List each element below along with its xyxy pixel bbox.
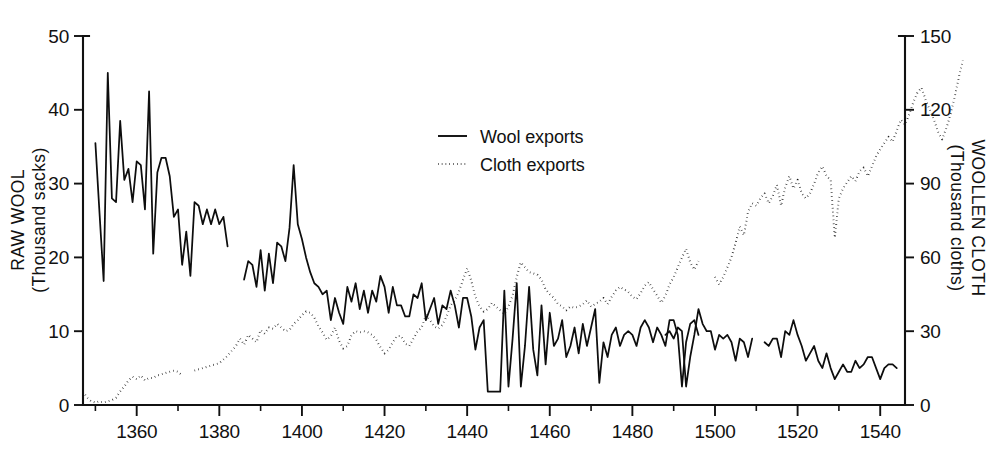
chart-container: 0102030405003060901201501360138014001420… (0, 0, 999, 460)
x-axis-ticklabel: 1440 (447, 421, 488, 442)
left-axis-title-line2: (Thousand sacks) (29, 147, 49, 293)
left-axis-ticklabel: 20 (48, 247, 69, 268)
legend-label: Cloth exports (480, 155, 585, 175)
left-axis-ticklabel: 50 (48, 26, 69, 47)
series-line-segment (244, 165, 698, 392)
x-axis-ticklabel: 1520 (777, 421, 818, 442)
x-axis-ticklabel: 1420 (364, 421, 405, 442)
left-axis-title-line1: RAW WOOL (8, 169, 28, 271)
x-axis-ticklabel: 1480 (612, 421, 653, 442)
x-axis-ticklabel: 1360 (116, 421, 157, 442)
plot-area (83, 61, 963, 403)
right-axis-title-line2: (Thousand cloths) (947, 145, 967, 292)
x-axis-ticklabel: 1500 (694, 421, 735, 442)
series-line-segment (765, 320, 897, 379)
right-axis-ticklabel: 30 (920, 321, 941, 342)
right-axis-ticklabel: 120 (920, 99, 951, 120)
series-cloth (83, 61, 963, 403)
left-axis-title: RAW WOOL(Thousand sacks) (8, 147, 49, 293)
x-axis-ticklabel: 1460 (529, 421, 570, 442)
series-line-segment (83, 371, 182, 403)
x-axis-ticklabel: 1540 (860, 421, 901, 442)
left-axis-ticklabel: 40 (48, 99, 69, 120)
right-axis-title-line1: WOOLLEN CLOTH (968, 140, 988, 297)
left-axis-ticklabel: 0 (59, 395, 69, 416)
right-axis-ticklabel: 90 (920, 173, 941, 194)
legend-item: Cloth exports (438, 155, 585, 175)
series-line-segment (95, 73, 227, 281)
left-axis-ticklabel: 10 (48, 321, 69, 342)
x-axis-ticklabel: 1380 (199, 421, 240, 442)
legend-label: Wool exports (480, 127, 584, 147)
right-axis-ticklabel: 0 (920, 395, 930, 416)
chart-legend: Wool exportsCloth exports (438, 127, 585, 175)
right-axis-line (895, 36, 905, 405)
axes (74, 36, 914, 416)
right-axis-title: WOOLLEN CLOTH(Thousand cloths) (947, 140, 988, 297)
series-wool (95, 73, 896, 392)
left-axis-ticklabel: 30 (48, 173, 69, 194)
right-axis-ticklabel: 60 (920, 247, 941, 268)
wool-cloth-exports-chart: 0102030405003060901201501360138014001420… (0, 0, 999, 460)
x-axis-ticklabel: 1400 (281, 421, 322, 442)
right-axis-ticklabel: 150 (920, 26, 951, 47)
legend-item: Wool exports (438, 127, 584, 147)
left-axis-line (83, 36, 93, 405)
